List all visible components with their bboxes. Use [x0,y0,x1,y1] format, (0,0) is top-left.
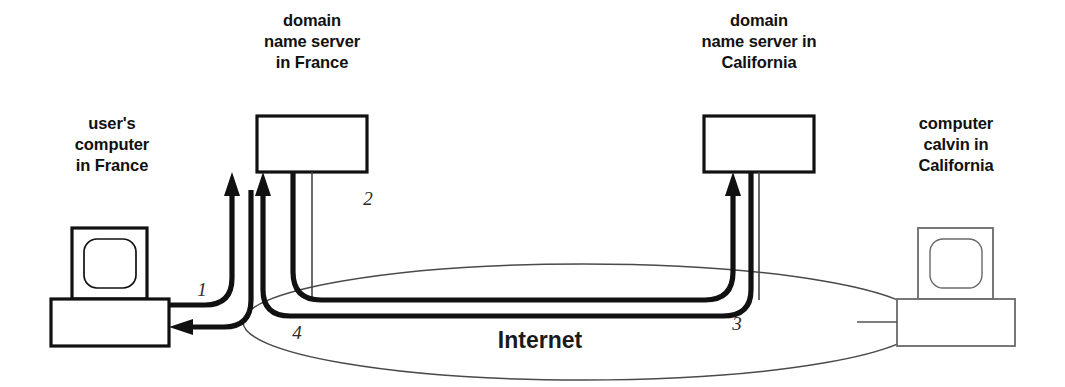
computer-calvin-graphic [897,228,1015,346]
step-label-2: 2 [363,188,373,209]
calvin-label-line-0: computer [919,114,994,132]
step-label-1: 1 [197,279,207,300]
dns-france-label-line-0: domain [283,11,341,29]
dns-california-label-line-1: name server in [701,32,816,50]
internet-cloud-ellipse [243,264,923,380]
user-computer-label-line-0: user's [88,114,135,132]
server-box-california [704,116,814,172]
dns-california-label-line-2: California [721,53,797,71]
flow-4-arrowhead-icon [169,319,193,335]
label-dns-france: domain name server in France [264,11,361,71]
label-dns-california: domain name server in California [701,11,816,71]
flow-2-arrowhead-icon [725,172,741,196]
dns-france-label-line-2: in France [276,53,348,71]
flow-path-3 [263,172,751,316]
internet-cloud-label: Internet [498,327,583,353]
user-computer-label-line-2: in France [76,156,148,174]
server-box-france [257,116,367,172]
step-label-3: 3 [731,313,742,334]
calvin-label-line-1: calvin in [923,135,988,153]
label-computer-calvin: computer calvin in California [918,114,994,174]
dns-california-label-line-0: domain [730,11,788,29]
user-computer-label-line-1: computer [75,135,150,153]
dns-lookup-diagram: user's computer in France domain name se… [0,0,1065,387]
step-label-4: 4 [292,322,302,343]
dns-france-label-line-1: name server [264,32,361,50]
label-user-computer: user's computer in France [75,114,150,174]
calvin-label-line-2: California [918,156,994,174]
flow-path-2 [293,172,733,300]
flow-1-arrowhead-icon [224,172,240,196]
flow-3-arrowhead-icon [255,172,271,196]
user-computer-graphic [51,228,169,346]
diagram-canvas: user's computer in France domain name se… [0,0,1065,387]
